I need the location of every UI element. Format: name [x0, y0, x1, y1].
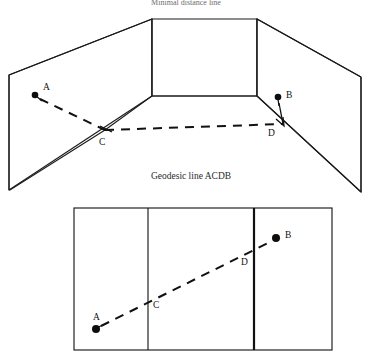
left-wall [9, 19, 152, 190]
geometry-figure: Minimal distance line A B [0, 0, 371, 364]
middle-caption: Geodesic line ACDB [151, 171, 231, 181]
back-wall [152, 19, 257, 96]
unfolded-point-b-dot [272, 234, 280, 242]
unfolded-point-a-label: A [93, 312, 100, 322]
point-b-dot [275, 94, 282, 101]
point-a-label: A [43, 82, 50, 92]
diagram-canvas: Minimal distance line A B [0, 0, 371, 364]
geodesic-segment-cd [105, 124, 283, 130]
unfolded-point-d-label: D [241, 257, 248, 267]
point-b-label: B [286, 90, 292, 100]
point-c-label: C [99, 137, 105, 147]
perspective-room-panel: A B C D [9, 19, 361, 192]
unfolded-point-c-label: C [153, 300, 159, 310]
point-a-dot [32, 92, 39, 99]
top-caption: Minimal distance line [151, 0, 221, 7]
unfolded-room-panel: A B C D [74, 208, 332, 350]
unfolded-outline [74, 208, 332, 350]
point-d-label: D [268, 128, 275, 138]
unfolded-point-b-label: B [285, 230, 291, 240]
right-wall [257, 19, 361, 192]
unfolded-point-a-dot [92, 325, 100, 333]
